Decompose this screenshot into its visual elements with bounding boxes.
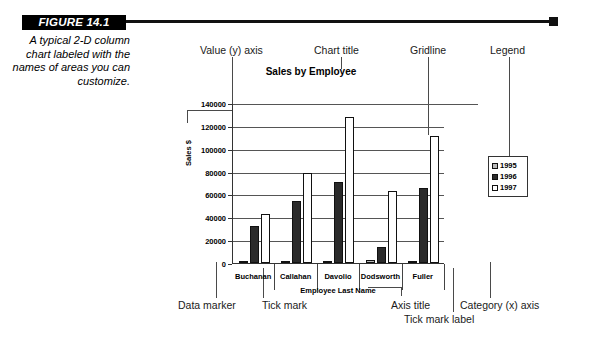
annotation-tick-mark-label: Tick mark label — [404, 313, 474, 325]
annotation-gridline: Gridline — [410, 44, 446, 56]
legend-item[interactable]: 1995 — [492, 160, 524, 171]
annotation-category-x-axis: Category (x) axis — [460, 299, 539, 311]
data-marker-bar[interactable] — [430, 136, 439, 263]
figure-caption: A typical 2-D column chart labeled with … — [8, 34, 130, 88]
legend-item[interactable]: 1997 — [492, 182, 524, 193]
data-marker-bar[interactable] — [388, 191, 397, 263]
chart-legend: 199519961997 — [488, 156, 528, 197]
chart-title-text: Sales by Employee — [186, 66, 436, 77]
y-axis-title: Sales $ — [184, 140, 193, 166]
data-marker-bar[interactable] — [366, 260, 375, 263]
legend-label: 1995 — [500, 161, 517, 170]
y-axis-tick-label: 40000 — [205, 214, 226, 223]
x-axis-tick-mark — [402, 264, 403, 290]
leader-tick-mark-label — [453, 268, 454, 312]
bar-group — [318, 103, 360, 263]
data-marker-bar[interactable] — [323, 261, 332, 263]
y-axis-tick-mark — [228, 264, 232, 265]
figure-number-label: FIGURE 14.1 — [22, 15, 126, 30]
x-axis-title: Employee Last Name — [300, 286, 375, 295]
data-marker-bar[interactable] — [239, 261, 248, 263]
data-marker-bar[interactable] — [303, 173, 312, 263]
legend-swatch — [492, 163, 498, 169]
annotation-tick-mark: Tick mark — [262, 299, 307, 311]
y-axis-tick-label: 20000 — [205, 237, 226, 246]
x-axis-tick-label: Callahan — [280, 272, 311, 281]
data-marker-bar[interactable] — [408, 261, 417, 263]
data-marker-bar[interactable] — [250, 226, 259, 263]
bar-group — [275, 103, 317, 263]
y-axis-tick-label: 100000 — [201, 145, 226, 154]
legend-label: 1996 — [500, 172, 517, 181]
column-chart: Sales by Employee Sales $ 02000040000600… — [186, 58, 516, 268]
annotation-axis-title: Axis title — [391, 299, 430, 311]
figure-page: FIGURE 14.1 A typical 2-D column chart l… — [0, 0, 613, 341]
y-axis-tick-label: 0 — [222, 260, 226, 269]
legend-swatch — [492, 174, 498, 180]
bar-group — [360, 103, 402, 263]
figure-number-badge: FIGURE 14.1 — [22, 15, 126, 30]
x-axis-tick-label: Fuller — [413, 272, 433, 281]
annotation-chart-title: Chart title — [314, 44, 359, 56]
x-axis-tick-label: Buchanan — [235, 272, 271, 281]
annotation-data-marker: Data marker — [178, 299, 236, 311]
legend-swatch — [492, 185, 498, 191]
y-axis-tick-label: 80000 — [205, 168, 226, 177]
bar-group — [403, 103, 445, 263]
x-axis-tick-mark — [444, 264, 445, 290]
data-marker-bar[interactable] — [345, 117, 354, 263]
annotation-legend: Legend — [490, 44, 525, 56]
header-rule-end-marker — [549, 17, 558, 26]
y-axis-tick-label: 60000 — [205, 191, 226, 200]
data-marker-bar[interactable] — [334, 182, 343, 263]
y-axis-tick-label: 120000 — [201, 122, 226, 131]
data-marker-bar[interactable] — [281, 261, 290, 263]
bar-group — [233, 103, 275, 263]
data-marker-bar[interactable] — [261, 214, 270, 263]
data-marker-bar[interactable] — [292, 201, 301, 263]
plot-area — [232, 104, 444, 264]
data-marker-bar[interactable] — [419, 188, 428, 263]
data-marker-bar[interactable] — [377, 247, 386, 263]
annotation-value-y-axis: Value (y) axis — [200, 44, 263, 56]
x-axis-tick-label: Davolio — [324, 272, 351, 281]
legend-label: 1997 — [500, 183, 517, 192]
x-axis-tick-label: Dodsworth — [361, 272, 400, 281]
x-axis-tick-mark — [274, 264, 275, 290]
y-axis-tick-label: 140000 — [201, 100, 226, 109]
legend-item[interactable]: 1996 — [492, 171, 524, 182]
